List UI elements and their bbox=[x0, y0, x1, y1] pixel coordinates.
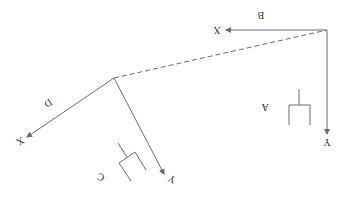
frame-connection-dashed-line bbox=[114, 30, 327, 78]
frame-b-label: B bbox=[257, 10, 264, 21]
object-c-label: C bbox=[95, 171, 106, 184]
frame-d-y-axis-label: Y bbox=[166, 173, 177, 186]
frame-d: D X Y bbox=[14, 78, 178, 186]
object-a-label: A bbox=[261, 102, 269, 113]
object-a-fork-icon: A bbox=[261, 89, 310, 125]
frame-b-x-axis-label: X bbox=[213, 25, 221, 36]
object-c-fork-icon: C bbox=[95, 143, 146, 184]
frame-d-x-axis-arrow bbox=[27, 78, 114, 137]
frame-d-y-axis-arrow bbox=[114, 78, 164, 174]
frame-b: B X Y bbox=[213, 10, 331, 148]
frame-b-y-axis-label: Y bbox=[323, 137, 330, 148]
frames-diagram: B X Y D X Y A C bbox=[0, 0, 343, 198]
frame-d-label: D bbox=[42, 97, 54, 110]
frame-d-x-axis-label: X bbox=[14, 135, 27, 149]
